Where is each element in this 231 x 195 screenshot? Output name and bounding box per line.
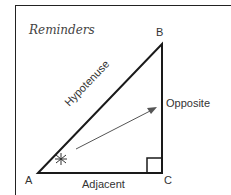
opposite-label: Opposite xyxy=(166,97,210,109)
arrow-head-icon xyxy=(147,107,157,114)
adjacent-label: Adjacent xyxy=(82,178,125,190)
vertex-c-label: C xyxy=(164,174,172,186)
right-angle-marker xyxy=(147,158,162,173)
vertex-b-label: B xyxy=(156,26,163,38)
arrow-line xyxy=(76,110,152,149)
vertex-a-label: A xyxy=(25,174,32,186)
